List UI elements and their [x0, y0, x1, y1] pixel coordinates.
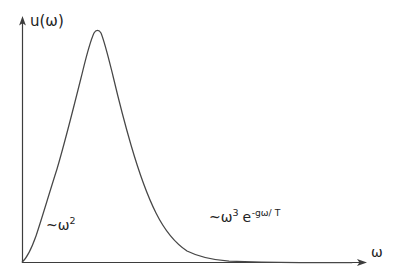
- high-freq-exponent: 3: [232, 207, 238, 218]
- high-freq-omega: ω: [221, 209, 233, 225]
- low-freq-omega: ω: [58, 217, 70, 233]
- low-freq-exponent: 2: [69, 215, 75, 226]
- blackbody-spectrum-figure: u(ω) ω ~ω2 ~ω3e-gω/ T: [0, 0, 399, 276]
- low-freq-tilde: ~: [46, 217, 58, 233]
- high-freq-exp-power: -gω/ T: [252, 207, 281, 218]
- plot-canvas: [0, 0, 399, 276]
- high-freq-tilde: ~: [209, 209, 221, 225]
- high-freq-exp-base: e: [243, 209, 252, 225]
- x-axis-label: ω: [371, 245, 383, 259]
- y-axis-label: u(ω): [30, 14, 64, 29]
- low-frequency-annotation: ~ω2: [46, 218, 76, 232]
- high-frequency-annotation: ~ω3e-gω/ T: [209, 210, 280, 224]
